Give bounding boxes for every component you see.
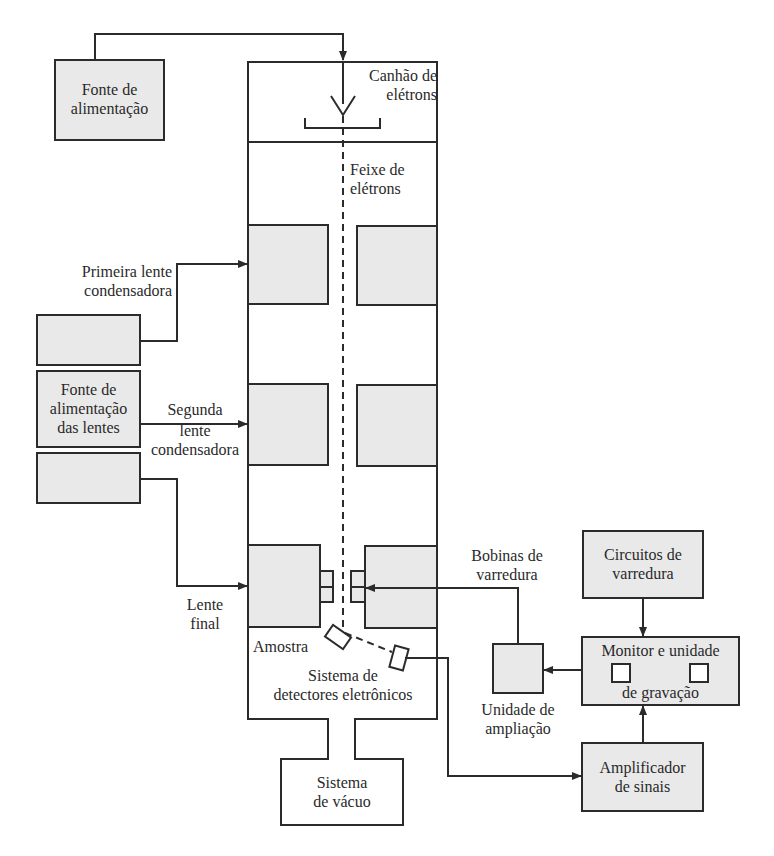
monitor-recording-label-bottom: de gravação xyxy=(582,683,739,702)
electron-gun-label: Canhão de elétrons xyxy=(347,66,437,104)
second-condenser-left-pole xyxy=(248,384,328,465)
sample-icon xyxy=(325,625,351,649)
final-lens-connector xyxy=(140,479,247,586)
final-lens-left-pole xyxy=(248,545,320,627)
power-to-gun-connector xyxy=(95,34,343,60)
signal-amplifier-label: Amplificador de sinais xyxy=(582,758,703,796)
final-lens-label: Lente final xyxy=(175,595,235,633)
first-condenser-supply-box xyxy=(37,315,140,365)
scan-coil-left-lower xyxy=(320,587,333,602)
scan-coil-right-upper xyxy=(351,571,365,587)
scan-coils-label: Bobinas de varredura xyxy=(452,546,562,584)
first-condenser-label: Primeira lente condensadora xyxy=(50,262,172,300)
final-lens-supply-box xyxy=(37,453,140,503)
detector-system-label: Sistema de detectores eletrônicos xyxy=(252,666,434,704)
second-condenser-label: Segunda lente condensadora xyxy=(142,400,248,459)
monitor-screen-icon xyxy=(612,664,630,682)
scan-circuits-label: Circuitos de varredura xyxy=(583,545,703,583)
electron-beam-label: Feixe de elétrons xyxy=(350,160,405,198)
recorder-screen-icon xyxy=(690,664,708,682)
scan-coil-right-lower xyxy=(351,587,365,602)
first-condenser-right-pole xyxy=(357,226,437,305)
magnification-unit-label: Unidade de ampliação xyxy=(462,700,574,738)
magnification-unit-box xyxy=(493,644,543,693)
lens-power-supply-label: Fonte de alimentação das lentes xyxy=(37,380,140,437)
scan-coil-left-upper xyxy=(320,571,333,587)
scattered-electron-path xyxy=(345,633,392,652)
first-condenser-left-pole xyxy=(248,225,328,304)
sample-label: Amostra xyxy=(253,637,308,656)
power-supply-label: Fonte de alimentação xyxy=(55,80,164,118)
vacuum-system-label: Sistema de vácuo xyxy=(281,773,403,811)
monitor-recording-label-top: Monitor e unidade xyxy=(582,641,739,660)
second-condenser-right-pole xyxy=(357,385,437,466)
